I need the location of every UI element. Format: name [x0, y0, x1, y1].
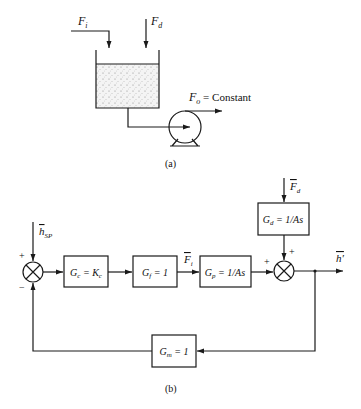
setpoint-label: hSP [39, 225, 53, 240]
caption-a: (a) [165, 158, 176, 170]
tank-liquid [96, 64, 159, 108]
summing-junction-2 [274, 261, 294, 281]
inlet-flow-label: Fi [77, 14, 88, 30]
caption-b: (b) [165, 383, 177, 395]
fd-signal-label: Fd [289, 180, 301, 195]
outlet-flow-label: Fo = Constant [188, 90, 251, 106]
inlet-pipe-arrow [71, 31, 109, 48]
junction2-plus-left: + [264, 256, 270, 267]
outlet-pipe [128, 108, 190, 127]
disturbance-flow-label: Fd [150, 14, 163, 30]
junction1-minus: − [19, 282, 25, 293]
junction1-plus: + [19, 250, 25, 261]
measurement-return-line [33, 283, 152, 351]
fi-signal-label: Fi [183, 253, 193, 268]
summing-junction-1 [23, 262, 43, 282]
process-schematic: Fi Fd Fo = Constant (a) [71, 14, 251, 170]
junction2-plus-top: + [289, 246, 295, 257]
figure-canvas: Fi Fd Fo = Constant (a) hSP + − [0, 0, 361, 409]
output-label: h′ [336, 252, 345, 264]
block-diagram: hSP + − Gc = Kc Gf = 1 Fi Gp = 1/As [19, 178, 345, 395]
